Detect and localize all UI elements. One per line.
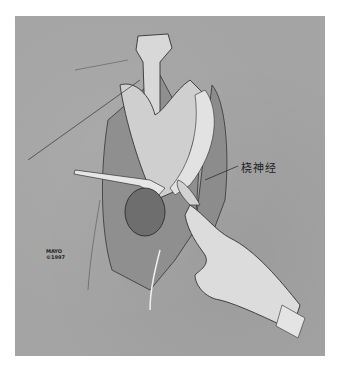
- mayo-stamp: MAYO ©1997: [46, 248, 65, 260]
- stamp-line-2: ©1997: [46, 254, 65, 260]
- surgical-illustration: [0, 0, 339, 373]
- radial-nerve-label: 桡神经: [241, 159, 277, 175]
